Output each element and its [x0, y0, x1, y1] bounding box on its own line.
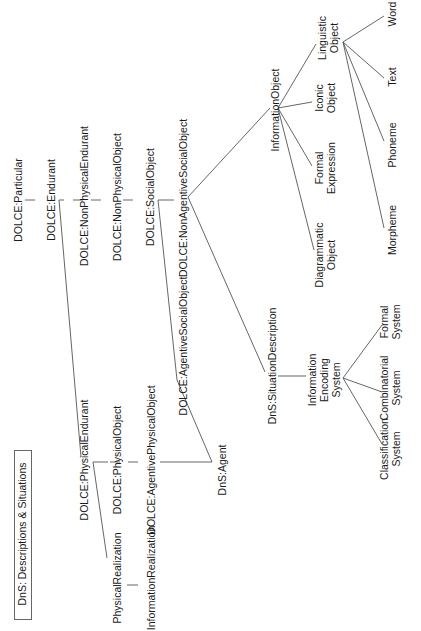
node-physical-realization: PhysicalRealization: [111, 532, 123, 623]
node-dolce-nonphysical-endurant: DOLCE:NonPhysicalEndurant: [78, 126, 90, 266]
node-formal-system: Formal System: [378, 304, 402, 339]
node-dns-agent: DnS:Agent: [216, 445, 228, 496]
node-dolce-particular: DOLCE:Particular: [12, 158, 24, 241]
node-diagrammatic-object: Diagrammatic Object: [313, 223, 337, 288]
node-combinatorial-system: Combinatorial System: [378, 356, 402, 421]
node-dolce-nonagentive-social-object: DOLCE:NonAgentiveSocialObject: [177, 119, 189, 277]
node-dns-situation-description: DnS:SituationDescription: [266, 308, 278, 425]
node-information-realization: InformationRealization: [145, 526, 157, 630]
diagram-title: DnS: Descriptions & Situations: [16, 463, 28, 606]
node-classification-system: Classification System: [378, 418, 402, 480]
node-information-object: InformationObject: [269, 69, 281, 152]
node-phoneme: Phoneme: [386, 123, 398, 168]
node-iconic-object: Iconic Object: [313, 83, 337, 113]
ontology-diagram: DnS: Descriptions & Situations DOLCE:Par…: [0, 0, 421, 631]
node-morpheme: Morpheme: [386, 205, 398, 255]
diagram-connectors: [0, 0, 421, 631]
node-dolce-agentive-social-object: DOLCE:AgentiveSocialObject: [177, 277, 189, 416]
node-information-encoding-system: Information Encoding System: [306, 354, 342, 407]
node-dolce-nonphysical-object: DOLCE:NonPhysicalObject: [111, 133, 123, 261]
node-dolce-agentive-physical-object: DOLCE:AgentivePhysicalObject: [145, 385, 157, 534]
node-word: Word: [386, 2, 398, 27]
node-dolce-endurant: DOLCE:Endurant: [45, 159, 57, 241]
node-linguistic-object: Linguistic Object: [316, 16, 340, 60]
node-formal-expression: Formal Expression: [313, 142, 337, 194]
node-dolce-physical-endurant: DOLCE:PhysicalEndurant: [78, 400, 90, 521]
node-dolce-physical-object: DOLCE:PhysicalObject: [111, 406, 123, 515]
node-text: Text: [386, 67, 398, 86]
node-dolce-social-object: DOLCE:SocialObject: [144, 148, 156, 246]
